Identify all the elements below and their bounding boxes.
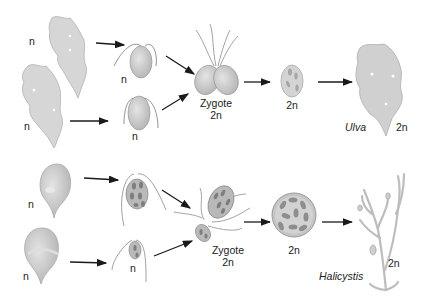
arrow	[166, 56, 194, 74]
halicystis-adult-name: Halicystis	[319, 271, 363, 282]
arrow	[70, 262, 106, 263]
ulva-zygote-label: Zygote	[200, 98, 232, 109]
halicystis-spore	[272, 193, 316, 237]
arrow	[96, 43, 124, 45]
halicystis-zygote-label: Zygote	[212, 245, 244, 256]
arrow	[162, 94, 188, 110]
halicystis-zygote-ploidy: 2n	[222, 257, 234, 268]
arrow	[162, 190, 190, 208]
ulva-gamete-2	[124, 96, 158, 130]
halicystis-gametophyte-2-ploidy: n	[23, 271, 29, 282]
ulva-gamete-2-ploidy: n	[132, 131, 138, 142]
halicystis-adult	[358, 174, 404, 290]
halicystis-adult-ploidy: 2n	[388, 258, 400, 269]
halicystis-gametophyte-2	[25, 228, 59, 284]
ulva-adult-name: Ulva	[345, 122, 366, 133]
ulva-spore	[281, 65, 303, 97]
ulva-gametophyte-2	[22, 65, 62, 148]
ulva-spore-ploidy: 2n	[286, 100, 298, 111]
ulva-zygote	[191, 24, 243, 98]
life-cycle-diagram	[0, 0, 432, 303]
ulva-gamete-1-ploidy: n	[121, 74, 127, 85]
halicystis-gamete-large	[122, 174, 166, 226]
ulva-zygote-ploidy: 2n	[210, 110, 222, 121]
halicystis-gametophyte-1-ploidy: n	[28, 199, 34, 210]
halicystis-gamete-small-ploidy: n	[130, 263, 136, 274]
halicystis-zygote	[174, 182, 250, 245]
ulva-gametophyte-2-ploidy: n	[24, 121, 30, 132]
halicystis-gametophyte-1	[40, 164, 71, 218]
halicystis-gamete-small	[112, 240, 146, 282]
halicystis-spore-ploidy: 2n	[288, 245, 300, 256]
arrow	[154, 241, 192, 256]
ulva-adult-ploidy: 2n	[396, 122, 408, 133]
ulva-gametophyte-1-ploidy: n	[29, 36, 35, 47]
arrow	[84, 178, 118, 180]
